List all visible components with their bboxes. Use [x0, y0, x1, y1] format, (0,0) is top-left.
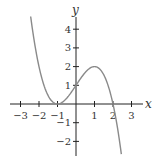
x-tick-label: −2: [32, 110, 47, 121]
x-tick-label: −3: [13, 110, 28, 121]
y-tick-label: 2: [65, 61, 71, 72]
y-tick-label: −2: [56, 136, 71, 147]
y-tick-label: 4: [65, 24, 71, 35]
function-plot: x y −3−2−1123 4321−1−2: [0, 0, 157, 164]
y-axis-label: y: [71, 3, 79, 17]
x-tick-label: 1: [91, 110, 97, 121]
y-tick-label: −1: [56, 117, 71, 128]
x-axis-label: x: [145, 97, 152, 111]
y-tick-label: 1: [65, 80, 71, 91]
y-tick-label: 3: [65, 42, 71, 53]
x-tick-label: 3: [128, 110, 134, 121]
